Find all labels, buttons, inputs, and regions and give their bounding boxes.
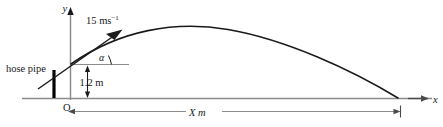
hose-pipe-label: hose pipe [6, 63, 46, 74]
diagram-canvas: y x O 15 ms−1 α 1.2 m hose pipe X m [0, 0, 443, 127]
height-label: 1.2 m [80, 77, 104, 88]
angle-arc [109, 56, 112, 65]
origin-label: O [63, 102, 71, 113]
height-arrow-up [85, 66, 90, 73]
speed-label: 15 ms−1 [86, 14, 119, 26]
y-axis-label: y [62, 3, 68, 14]
y-axis-arrowhead [67, 7, 73, 15]
height-arrow-down [85, 92, 90, 99]
trajectory-curve [71, 26, 398, 98]
speed-value: 15 ms [86, 15, 111, 26]
velocity-vector-line [38, 33, 118, 89]
speed-exponent: −1 [111, 14, 119, 22]
projectile-diagram: y x O 15 ms−1 α 1.2 m hose pipe X m [0, 0, 443, 127]
range-arrow-right [394, 109, 401, 114]
angle-label: α [99, 52, 105, 63]
x-axis-label: x [432, 94, 438, 105]
range-label: X m [188, 107, 206, 118]
